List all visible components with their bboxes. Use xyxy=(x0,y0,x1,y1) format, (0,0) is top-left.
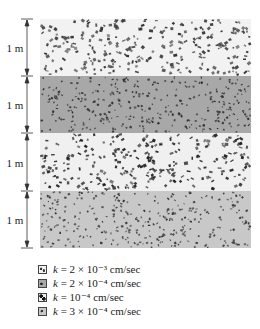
legend-swatch-layer-1 xyxy=(38,265,47,274)
soil-layers-diagram xyxy=(0,0,260,260)
layer-1-thickness-label: 1 m xyxy=(4,42,26,54)
legend-label-layer-1: = 2 × 10⁻³ cm/sec xyxy=(58,263,141,275)
legend-item-layer-2: k = 2 × 10⁻⁴ cm/sec xyxy=(38,276,141,290)
legend-item-layer-1: k = 2 × 10⁻³ cm/sec xyxy=(38,262,141,276)
soil-layer-2 xyxy=(40,76,251,133)
legend: k = 2 × 10⁻³ cm/sec k = 2 × 10⁻⁴ cm/sec … xyxy=(38,262,141,318)
legend-label-layer-4: = 3 × 10⁻⁴ cm/sec xyxy=(58,305,141,317)
legend-swatch-layer-4 xyxy=(38,307,47,316)
legend-swatch-layer-3 xyxy=(38,293,47,302)
layer-2-thickness-label: 1 m xyxy=(4,99,26,111)
legend-label-layer-2: = 2 × 10⁻⁴ cm/sec xyxy=(58,277,141,289)
layer-4-thickness-label: 1 m xyxy=(4,214,26,226)
legend-label-layer-3: = 10⁻⁴ cm/sec xyxy=(58,291,124,303)
soil-profile-figure: 1 m 1 m 1 m 1 m k = 2 × 10⁻³ cm/sec k = … xyxy=(0,0,260,329)
legend-item-layer-3: k = 10⁻⁴ cm/sec xyxy=(38,290,141,304)
legend-item-layer-4: k = 3 × 10⁻⁴ cm/sec xyxy=(38,304,141,318)
soil-layer-3 xyxy=(40,133,251,191)
legend-swatch-layer-2 xyxy=(38,279,47,288)
layer-3-thickness-label: 1 m xyxy=(4,157,26,169)
